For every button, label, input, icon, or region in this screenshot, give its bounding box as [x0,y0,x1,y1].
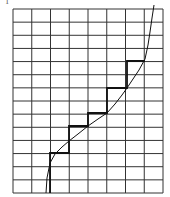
grid [13,9,163,193]
smooth-curve [46,5,154,193]
staircase-curve-diagram [0,0,170,197]
